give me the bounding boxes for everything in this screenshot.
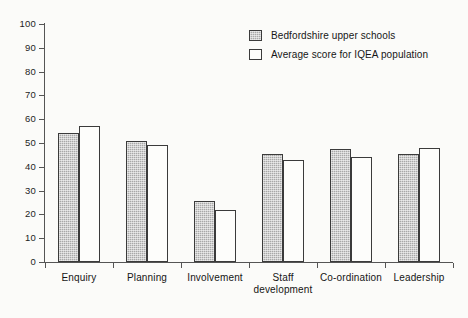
legend: Bedfordshire upper schools Average score… (249, 26, 461, 64)
legend-item-label: Bedfordshire upper schools (271, 30, 395, 41)
y-axis-tick-label: 60 (2, 113, 36, 124)
y-axis-tick-label: 40 (2, 161, 36, 172)
x-axis-tick (113, 263, 114, 268)
bar (330, 149, 351, 262)
bar (351, 157, 372, 262)
y-axis-tick-label: 80 (2, 66, 36, 77)
filled-grey-swatch-icon (249, 30, 262, 41)
bar (194, 201, 215, 262)
x-axis-tick (249, 263, 250, 268)
y-axis-tick-label: 0 (2, 256, 36, 267)
bar (79, 126, 100, 262)
legend-item: Bedfordshire upper schools (249, 26, 461, 45)
x-axis-tick (385, 263, 386, 268)
legend-item-label: Average score for IQEA population (271, 49, 428, 60)
bar-chart: 0102030405060708090100 EnquiryPlanningIn… (0, 0, 468, 318)
x-axis-tick (317, 263, 318, 268)
bar (262, 154, 283, 262)
x-axis-tick (45, 263, 46, 268)
outlined-white-swatch-icon (249, 49, 262, 60)
legend-item: Average score for IQEA population (249, 45, 461, 64)
y-axis-tick-label: 70 (2, 89, 36, 100)
bar (283, 160, 304, 262)
bar (147, 145, 168, 262)
x-axis-category-label: Leadership (379, 272, 459, 284)
bar (398, 154, 419, 262)
x-axis-category-label-line: Leadership (379, 272, 459, 284)
bar (419, 148, 440, 262)
y-axis-tick-label: 50 (2, 137, 36, 148)
x-axis-tick (181, 263, 182, 268)
y-axis-tick-label: 10 (2, 232, 36, 243)
x-axis-category-label-line: development (243, 284, 323, 296)
y-axis-tick-label: 30 (2, 185, 36, 196)
y-axis-tick-label: 20 (2, 208, 36, 219)
bar (58, 133, 79, 262)
y-axis-tick-label: 90 (2, 42, 36, 53)
x-axis-tick (453, 263, 454, 268)
bar (215, 210, 236, 262)
y-axis-tick-label: 100 (2, 18, 36, 29)
bar (126, 141, 147, 262)
